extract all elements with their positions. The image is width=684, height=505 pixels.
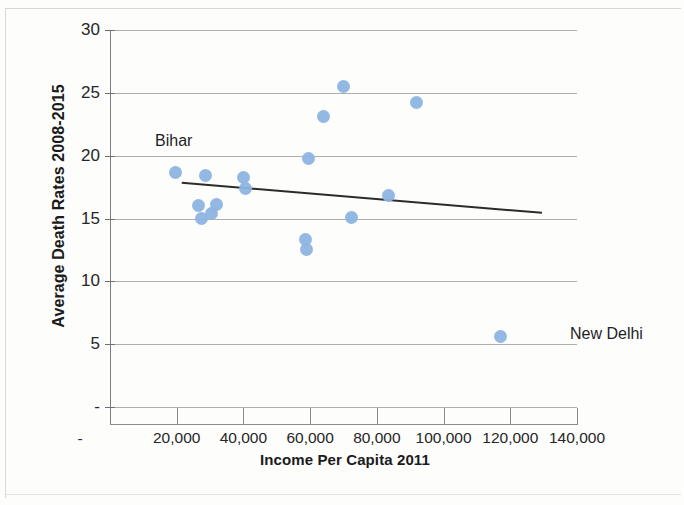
gridline-y-20 xyxy=(110,156,577,157)
gridline-y-0 xyxy=(110,407,577,408)
trendline-segment xyxy=(182,183,542,213)
data-point xyxy=(345,211,358,224)
annotation-label-new-delhi: New Delhi xyxy=(570,325,643,343)
y-tick-label-15: 15 xyxy=(50,210,100,227)
annotation-label-bihar: Bihar xyxy=(155,132,192,150)
plot-area xyxy=(110,30,577,407)
data-point xyxy=(494,330,507,343)
data-point xyxy=(199,169,212,182)
x-axis-right-cap xyxy=(577,408,578,425)
scan-edge-left xyxy=(5,8,6,498)
data-point xyxy=(300,243,313,256)
x-tick-label-140,000: 140,000 xyxy=(538,429,616,447)
y-tick-label-30: 30 xyxy=(50,21,100,38)
x-tick-120000 xyxy=(510,408,511,424)
y-tick-label--: - xyxy=(50,398,100,415)
y-tick-30 xyxy=(105,30,115,31)
y-tick-label-20: 20 xyxy=(50,147,100,164)
gridline-y-10 xyxy=(110,281,577,282)
y-tick-10 xyxy=(105,281,115,282)
x-tick-label--: - xyxy=(41,430,119,448)
y-tick-0 xyxy=(105,407,115,408)
data-point xyxy=(169,166,182,179)
x-tick-80000 xyxy=(377,408,378,424)
y-tick-label-5: 5 xyxy=(50,335,100,352)
data-point xyxy=(302,152,315,165)
data-point xyxy=(410,96,423,109)
y-tick-25 xyxy=(105,93,115,94)
data-point xyxy=(317,110,330,123)
x-tick-20000 xyxy=(177,408,178,424)
scan-edge-bottom xyxy=(5,494,681,495)
y-tick-15 xyxy=(105,219,115,220)
data-point xyxy=(382,189,395,202)
x-tick-100000 xyxy=(444,408,445,424)
y-tick-label-10: 10 xyxy=(50,272,100,289)
x-axis-line xyxy=(110,424,578,425)
data-point xyxy=(337,80,350,93)
gridline-y-5 xyxy=(110,344,577,345)
y-axis-line-extension xyxy=(110,407,111,425)
y-tick-5 xyxy=(105,344,115,345)
gridline-y-15 xyxy=(110,219,577,220)
x-tick-40000 xyxy=(243,408,244,424)
scan-edge-top xyxy=(5,8,681,9)
x-axis-title: Income Per Capita 2011 xyxy=(110,451,580,468)
data-point xyxy=(210,198,223,211)
gridline-y-30 xyxy=(110,30,577,31)
y-tick-label-25: 25 xyxy=(50,84,100,101)
data-point xyxy=(239,182,252,195)
data-point xyxy=(192,199,205,212)
chart-figure: Average Death Rates 2008-2015 Income Per… xyxy=(0,0,684,505)
x-tick-60000 xyxy=(310,408,311,424)
y-tick-20 xyxy=(105,156,115,157)
